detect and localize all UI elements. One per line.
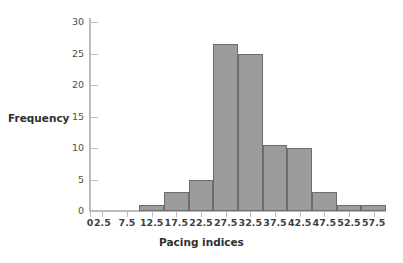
y-tick-mark bbox=[91, 117, 98, 118]
histogram-bar bbox=[213, 44, 238, 211]
y-tick-label: 5 bbox=[56, 174, 84, 185]
histogram-bar bbox=[139, 205, 164, 211]
y-tick-label: 10 bbox=[56, 142, 84, 153]
x-tick-label: 37.5 bbox=[263, 217, 286, 228]
x-tick-label: 57.5 bbox=[362, 217, 385, 228]
histogram-bar bbox=[263, 145, 288, 211]
y-tick-mark bbox=[91, 211, 98, 212]
y-tick-label: 30 bbox=[56, 16, 84, 27]
histogram-chart: 051015202530 02.57.512.517.522.527.532.5… bbox=[0, 0, 403, 263]
y-tick-mark bbox=[91, 148, 98, 149]
y-tick-mark bbox=[91, 54, 98, 55]
x-tick-label: 17.5 bbox=[165, 217, 188, 228]
histogram-bar bbox=[287, 148, 312, 211]
x-tick-label: 7.5 bbox=[119, 217, 136, 228]
y-tick-label: 0 bbox=[56, 205, 84, 216]
histogram-bar bbox=[189, 180, 214, 212]
y-axis-label: Frequency bbox=[8, 112, 69, 124]
x-tick-label: 47.5 bbox=[313, 217, 336, 228]
x-tick-label: 22.5 bbox=[189, 217, 212, 228]
x-tick-label: 2.5 bbox=[94, 217, 111, 228]
x-axis-label: Pacing indices bbox=[0, 236, 403, 248]
y-tick-mark bbox=[91, 22, 98, 23]
x-tick-label: 42.5 bbox=[288, 217, 311, 228]
x-tick-label: 32.5 bbox=[239, 217, 262, 228]
y-tick-mark bbox=[91, 180, 98, 181]
histogram-bar bbox=[337, 205, 362, 211]
y-tick-label: 25 bbox=[56, 48, 84, 59]
x-tick-label: 0 bbox=[87, 217, 94, 228]
histogram-bar bbox=[238, 54, 263, 212]
histogram-bar bbox=[164, 192, 189, 211]
x-tick-label: 52.5 bbox=[337, 217, 360, 228]
y-axis-spine bbox=[89, 18, 91, 212]
histogram-bar bbox=[312, 192, 337, 211]
y-tick-label: 20 bbox=[56, 79, 84, 90]
histogram-bar bbox=[361, 205, 386, 211]
y-tick-mark bbox=[91, 85, 98, 86]
x-tick-label: 27.5 bbox=[214, 217, 237, 228]
x-tick-label: 12.5 bbox=[140, 217, 163, 228]
